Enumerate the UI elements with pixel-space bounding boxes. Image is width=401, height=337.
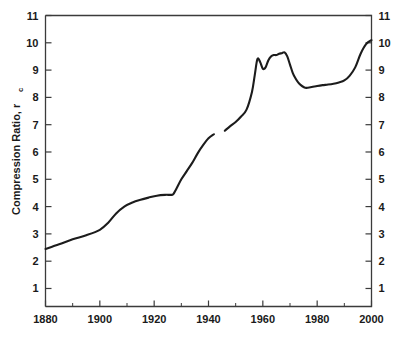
series-line-post-war	[225, 40, 372, 131]
y-tick-label-right: 6	[379, 146, 385, 158]
axis-tick-labels: 1880190019201940196019802000112233445566…	[26, 10, 391, 325]
plot-frame	[46, 16, 372, 307]
y-tick-label-left: 2	[32, 255, 38, 267]
svg-text:c: c	[16, 88, 25, 92]
x-tick-label: 1880	[33, 313, 57, 325]
y-tick-label-left: 9	[32, 64, 38, 76]
y-tick-label-right: 7	[379, 119, 385, 131]
y-tick-label-right: 4	[379, 201, 386, 213]
y-tick-label-left: 10	[26, 37, 38, 49]
compression-ratio-chart-figure: 1880190019201940196019802000112233445566…	[0, 0, 401, 337]
x-tick-label: 1940	[196, 313, 220, 325]
x-tick-label: 1900	[88, 313, 112, 325]
y-tick-label-left: 3	[32, 228, 38, 240]
x-tick-label: 1920	[142, 313, 166, 325]
y-axis-title: Compression Ratio, r c	[10, 88, 25, 215]
y-tick-label-right: 3	[379, 228, 385, 240]
y-tick-label-right: 8	[379, 91, 385, 103]
y-tick-label-right: 10	[379, 37, 391, 49]
y-tick-label-left: 8	[32, 91, 38, 103]
x-tick-label: 1980	[305, 313, 329, 325]
series-line-pre-war	[46, 134, 214, 249]
y-tick-label-right: 5	[379, 173, 385, 185]
y-tick-label-right: 11	[379, 10, 391, 22]
axis-ticks	[46, 16, 372, 307]
y-tick-label-left: 4	[32, 201, 39, 213]
compression-ratio-line-chart: 1880190019201940196019802000112233445566…	[0, 0, 401, 337]
x-tick-label: 1960	[251, 313, 275, 325]
y-tick-label-left: 1	[32, 282, 38, 294]
svg-text:Compression Ratio, r: Compression Ratio, r	[10, 103, 22, 215]
y-tick-label-left: 11	[27, 10, 39, 22]
y-tick-label-left: 5	[32, 173, 38, 185]
y-tick-label-right: 9	[379, 64, 385, 76]
y-tick-label-left: 7	[32, 119, 38, 131]
y-tick-label-right: 1	[379, 282, 385, 294]
y-tick-label-right: 2	[379, 255, 385, 267]
data-series-group	[46, 40, 372, 249]
x-tick-label: 2000	[359, 313, 383, 325]
y-tick-label-left: 6	[32, 146, 38, 158]
